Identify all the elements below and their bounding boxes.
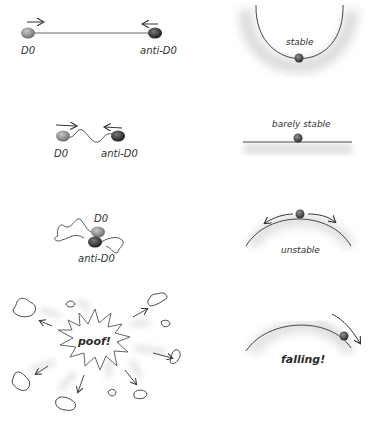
d0-particle — [21, 28, 35, 39]
stable-label: stable — [286, 37, 314, 47]
unstable-label: unstable — [281, 245, 320, 255]
arrow-left-icon — [105, 127, 122, 128]
anti-d0-label: anti-D0 — [78, 253, 115, 264]
falling-label: falling! — [281, 353, 325, 366]
ball — [296, 210, 305, 219]
debris-blob — [134, 390, 147, 399]
barely-stable-label: barely stable — [272, 119, 331, 129]
debris-blob — [56, 397, 76, 410]
d0-label: D0 — [21, 45, 35, 56]
panel-row3-right: unstable — [246, 210, 351, 256]
anti-d0-particle — [88, 237, 102, 248]
anti-d0-label: anti-D0 — [140, 45, 177, 56]
anti-d0-label: anti-D0 — [101, 148, 138, 159]
ball — [295, 54, 304, 63]
panel-row4-left: poof! — [12, 293, 180, 411]
tangle-right — [101, 238, 123, 254]
debris-blob — [170, 350, 180, 364]
panel-row1-right: stable — [246, 5, 352, 66]
wavy-connection — [66, 130, 114, 143]
ball — [340, 332, 349, 341]
ball — [294, 134, 303, 143]
panel-row1-left: D0 anti-D0 — [21, 22, 177, 56]
arrow-icon — [133, 309, 147, 317]
debris-blob — [148, 293, 167, 306]
arrow-icon — [40, 321, 52, 326]
panel-row2-right: barely stable — [243, 119, 352, 154]
poof-label: poof! — [77, 335, 111, 348]
d0-label: D0 — [94, 213, 108, 224]
debris-blob — [161, 320, 170, 327]
panel-row3-left: D0 anti-D0 — [55, 213, 123, 264]
panel-row4-right: falling! — [246, 314, 360, 366]
d0-particle — [56, 131, 70, 142]
anti-d0-particle — [111, 131, 125, 142]
debris-blob — [108, 389, 116, 395]
panel-row2-left: D0 anti-D0 — [54, 125, 138, 159]
arrow-right-icon — [56, 125, 76, 126]
debris-blob — [12, 372, 30, 390]
debris-blob — [13, 298, 36, 317]
anti-d0-particle — [148, 28, 162, 39]
tangle-left — [55, 219, 91, 241]
d0-particle — [91, 227, 105, 238]
arrow-icon — [78, 375, 84, 392]
flat-shadow — [244, 144, 352, 154]
hill-shadow — [252, 221, 350, 247]
d0-label: D0 — [54, 148, 68, 159]
debris-blob — [66, 301, 75, 307]
hill-shadow — [252, 327, 350, 353]
